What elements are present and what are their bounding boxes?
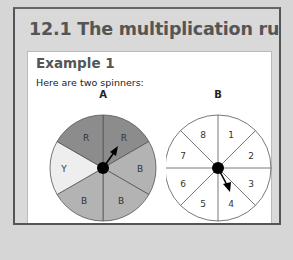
spinner-b: B 1 2 3 4 5 6 7 8 bbox=[166, 88, 276, 225]
example-intro: Here are two spinners: bbox=[36, 77, 144, 88]
svg-text:2: 2 bbox=[248, 151, 254, 161]
svg-text:R: R bbox=[83, 133, 89, 143]
svg-text:5: 5 bbox=[200, 199, 206, 209]
svg-text:1: 1 bbox=[228, 130, 234, 140]
spinner-a-pivot bbox=[97, 162, 109, 174]
example-heading: Example 1 bbox=[36, 55, 115, 71]
section-title: 12.1 The multiplication rule bbox=[29, 19, 281, 39]
svg-text:6: 6 bbox=[180, 179, 186, 189]
svg-text:B: B bbox=[137, 164, 143, 174]
svg-text:3: 3 bbox=[248, 179, 254, 189]
section-frame: 12.1 The multiplication rule Example 1 H… bbox=[13, 7, 281, 225]
svg-text:8: 8 bbox=[200, 130, 206, 140]
spinner-a: A R R B B B Y bbox=[48, 88, 158, 225]
svg-text:Y: Y bbox=[60, 164, 67, 174]
spinner-b-label: B bbox=[214, 89, 222, 100]
example-card: Example 1 Here are two spinners: A R R B… bbox=[27, 51, 272, 225]
svg-text:B: B bbox=[81, 196, 87, 206]
svg-text:4: 4 bbox=[228, 199, 234, 209]
svg-text:R: R bbox=[121, 133, 127, 143]
svg-text:7: 7 bbox=[180, 151, 186, 161]
spinner-b-pivot bbox=[212, 162, 224, 174]
spinner-a-label: A bbox=[99, 89, 107, 100]
svg-text:B: B bbox=[118, 196, 124, 206]
